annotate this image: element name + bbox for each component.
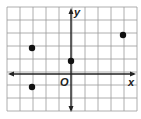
- plotted-point: [68, 58, 74, 64]
- y-axis-up-arrow-icon: [69, 8, 74, 14]
- x-axis-label: x: [127, 76, 135, 88]
- origin-label: O: [60, 76, 69, 88]
- plotted-point: [29, 84, 35, 90]
- coordinate-plane: yxO: [0, 0, 141, 119]
- plotted-point: [29, 45, 35, 51]
- plotted-point: [120, 32, 126, 38]
- y-axis-label: y: [73, 6, 81, 18]
